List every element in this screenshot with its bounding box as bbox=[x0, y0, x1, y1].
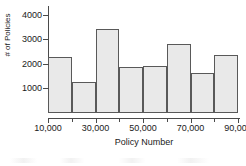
y-tick-mark bbox=[43, 15, 49, 16]
bar-series bbox=[48, 6, 238, 113]
x-tick-mark-minor bbox=[119, 118, 120, 122]
x-tick-mark-minor bbox=[214, 118, 215, 122]
histogram-bar bbox=[143, 66, 167, 113]
x-tick-label: 70,000 bbox=[168, 123, 214, 134]
histogram-bar bbox=[72, 82, 96, 113]
x-tick-label: 10,000 bbox=[25, 123, 71, 134]
x-tick-label: 30,000 bbox=[73, 123, 119, 134]
y-tick-label: 1000 bbox=[8, 83, 42, 94]
x-axis-tick-labels: 10,00030,00050,00070,00090,000 bbox=[48, 123, 240, 135]
y-tick-mark bbox=[43, 88, 49, 89]
plot-area bbox=[48, 6, 238, 112]
y-tick-mark bbox=[43, 64, 49, 65]
histogram-figure: # of Policies 1000200030004000 10,00030,… bbox=[0, 0, 246, 166]
scan-artifact bbox=[10, 158, 236, 163]
y-axis-tick-labels: 1000200030004000 bbox=[8, 0, 42, 166]
x-tick-mark-minor bbox=[167, 118, 168, 122]
histogram-bar bbox=[214, 55, 238, 113]
x-axis-label: Policy Number bbox=[48, 137, 240, 148]
y-tick-label: 2000 bbox=[8, 59, 42, 70]
x-axis-line bbox=[48, 118, 240, 119]
histogram-bar bbox=[191, 73, 215, 113]
y-tick-mark bbox=[43, 39, 49, 40]
histogram-bar bbox=[167, 44, 191, 113]
histogram-bar bbox=[48, 57, 72, 113]
x-tick-mark-minor bbox=[72, 118, 73, 122]
histogram-bar bbox=[119, 67, 143, 113]
y-tick-label: 4000 bbox=[8, 10, 42, 21]
y-tick-label: 3000 bbox=[8, 34, 42, 45]
x-tick-label: 50,000 bbox=[120, 123, 166, 134]
x-tick-label: 90,000 bbox=[215, 123, 246, 134]
histogram-bar bbox=[96, 29, 120, 113]
